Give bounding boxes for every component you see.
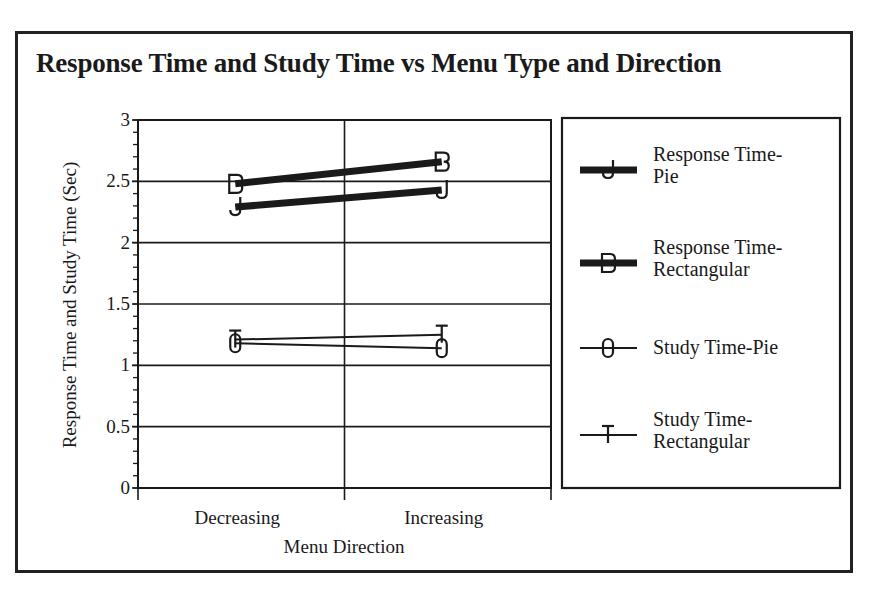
x-tick-label: Decreasing [195,507,281,528]
series-response-time-rectangular [229,153,449,193]
legend-item: Study Time-Pie [580,336,778,359]
series-response-time-pie [230,180,447,215]
legend-label: Rectangular [653,430,750,453]
y-tick-label: 2 [121,232,131,253]
legend: Response Time-PieResponse Time-Rectangul… [562,118,840,488]
y-axis-title: Response Time and Study Time (Sec) [59,162,81,449]
chart-canvas: 00.511.522.53DecreasingIncreasing Respon… [0,0,871,597]
y-tick-label: 1 [121,354,131,375]
legend-label: Pie [653,165,679,187]
legend-label: Response Time- [653,236,782,259]
y-tick-label: 0 [121,477,131,498]
legend-item: Study Time-Rectangular [580,408,752,453]
series-line [235,335,442,340]
y-axis-label: Response Time and Study Time (Sec) [59,162,81,449]
x-axis-label: Menu Direction [284,536,405,557]
series-line [235,162,442,184]
y-tick-label: 1.5 [106,293,130,314]
legend-item: Response Time-Rectangular [580,236,782,281]
legend-label: Study Time- [653,408,752,431]
series-line [235,190,442,207]
legend-label: Rectangular [653,258,750,281]
legend-item: Response Time-Pie [580,143,782,187]
series-line [235,343,442,348]
legend-label: Study Time-Pie [653,336,778,359]
x-tick-label: Increasing [404,507,484,528]
y-tick-label: 0.5 [106,416,130,437]
legend-label: Response Time- [653,143,782,166]
plot-area: 00.511.522.53DecreasingIncreasing [106,109,551,528]
y-tick-label: 2.5 [106,170,130,191]
y-tick-label: 3 [121,109,131,130]
